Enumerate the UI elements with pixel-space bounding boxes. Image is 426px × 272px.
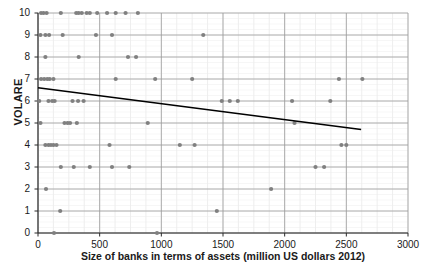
data-point [38, 33, 42, 37]
data-point [328, 99, 332, 103]
plot-canvas [0, 0, 426, 272]
y-tick-label: 0 [10, 227, 30, 238]
data-point [77, 55, 81, 59]
data-point [95, 11, 99, 15]
data-point [153, 77, 157, 81]
data-point [88, 11, 92, 15]
x-tick-label: 3000 [388, 239, 426, 250]
data-point [46, 99, 50, 103]
data-point [337, 77, 341, 81]
data-point [88, 165, 92, 169]
data-point [114, 11, 118, 15]
y-tick-label: 3 [10, 161, 30, 172]
x-tick-label: 1000 [141, 239, 181, 250]
data-point [105, 11, 109, 15]
x-tick-label: 2000 [265, 239, 305, 250]
data-point [110, 165, 114, 169]
data-point [70, 99, 74, 103]
data-point [44, 187, 48, 191]
data-point [344, 143, 348, 147]
data-point [110, 33, 114, 37]
data-point [38, 121, 42, 125]
data-point [215, 209, 219, 213]
scatter-chart-figure: VOLARE Size of banks in terms of assets … [0, 0, 426, 272]
y-tick-label: 6 [10, 95, 30, 106]
data-point [76, 99, 80, 103]
x-tick-label: 0 [18, 239, 58, 250]
data-point [313, 165, 317, 169]
data-point [114, 77, 118, 81]
data-point [59, 165, 63, 169]
data-point [82, 99, 86, 103]
data-point [136, 11, 140, 15]
y-tick-label: 7 [10, 73, 30, 84]
data-point [220, 99, 224, 103]
data-point [190, 77, 194, 81]
data-point [61, 33, 65, 37]
data-point [80, 11, 84, 15]
data-point [127, 165, 131, 169]
tick-marks [35, 13, 409, 237]
x-tick-label: 500 [80, 239, 120, 250]
data-point [59, 11, 63, 15]
y-tick-label: 1 [10, 205, 30, 216]
data-point [58, 209, 62, 213]
data-point [37, 99, 41, 103]
data-point [201, 33, 205, 37]
data-point [360, 77, 364, 81]
data-point [236, 99, 240, 103]
y-tick-label: 10 [10, 7, 30, 18]
data-point [134, 55, 138, 59]
data-point [322, 165, 326, 169]
data-point [43, 33, 47, 37]
data-point [94, 33, 98, 37]
data-point [43, 55, 47, 59]
data-point [269, 187, 273, 191]
y-tick-label: 8 [10, 51, 30, 62]
x-tick-label: 1500 [203, 239, 243, 250]
data-point [107, 143, 111, 147]
data-point [48, 77, 52, 81]
data-point [47, 33, 51, 37]
data-point [290, 99, 294, 103]
data-point [52, 231, 56, 235]
y-tick-label: 4 [10, 139, 30, 150]
data-point [75, 121, 79, 125]
data-point [126, 55, 130, 59]
y-tick-label: 9 [10, 29, 30, 40]
y-tick-label: 2 [10, 183, 30, 194]
y-tick-label: 5 [10, 117, 30, 128]
data-point [155, 231, 159, 235]
data-point [193, 143, 197, 147]
data-point [45, 11, 49, 15]
x-axis-label: Size of banks in terms of assets (millio… [38, 250, 408, 262]
data-point [51, 77, 55, 81]
data-point [339, 143, 343, 147]
data-point [72, 165, 76, 169]
x-tick-label: 2500 [326, 239, 366, 250]
data-point [123, 11, 127, 15]
data-point [68, 121, 72, 125]
data-point [228, 99, 232, 103]
data-point [54, 143, 58, 147]
data-point [53, 99, 57, 103]
data-point [146, 121, 150, 125]
data-point [178, 143, 182, 147]
